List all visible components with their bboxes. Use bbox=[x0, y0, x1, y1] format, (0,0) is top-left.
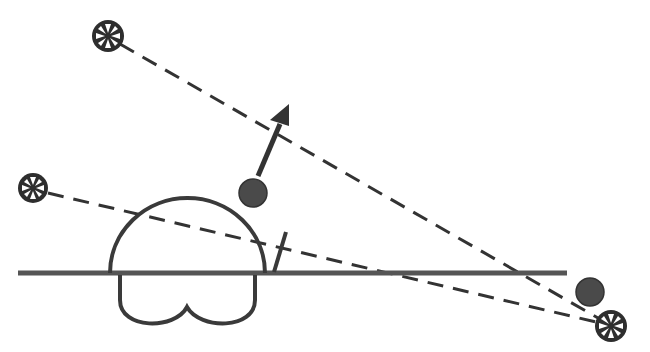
arrow-head-icon bbox=[270, 104, 289, 126]
ball-right bbox=[576, 278, 604, 306]
dashed-line-mid-left-to-bottom-right bbox=[48, 193, 596, 322]
arrow-shaft bbox=[258, 124, 280, 176]
dome-shape bbox=[110, 198, 265, 273]
dashed-line-top-left-to-bottom-right bbox=[120, 44, 598, 318]
ball-center bbox=[239, 179, 267, 207]
tick-mark bbox=[274, 232, 286, 272]
light-source-top-left-icon bbox=[92, 20, 124, 52]
diagram-canvas bbox=[0, 0, 650, 352]
light-source-mid-left-icon bbox=[18, 173, 48, 203]
light-source-bottom-right-icon bbox=[595, 310, 627, 342]
lobed-shape bbox=[120, 275, 255, 323]
